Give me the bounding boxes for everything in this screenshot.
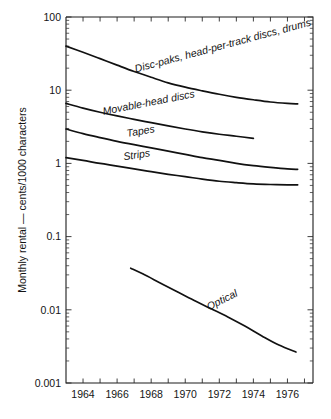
y-tick-label: 0.01 (41, 304, 62, 316)
x-tick-label: 1974 (242, 388, 266, 400)
x-tick-label: 1966 (105, 388, 129, 400)
x-tick-label: 1964 (71, 388, 95, 400)
x-tick-label: 1976 (276, 388, 300, 400)
y-tick-label: 0.1 (46, 230, 61, 242)
y-tick-label: 0.001 (35, 377, 61, 389)
chart-container: 1001010.10.010.001 196419661968197019721… (0, 0, 331, 419)
y-axis-title-text: Monthly rental — cents/1000 characters (16, 107, 28, 293)
y-tick-label: 10 (49, 84, 61, 96)
x-tick-label: 1972 (208, 388, 232, 400)
y-tick-label: 1 (55, 157, 61, 169)
x-tick-label: 1970 (174, 388, 198, 400)
y-axis-title: Monthly rental — cents/1000 characters (16, 107, 28, 293)
log-line-chart: 1001010.10.010.001 196419661968197019721… (0, 0, 331, 419)
y-tick-label: 100 (43, 11, 61, 23)
x-tick-label: 1968 (139, 388, 163, 400)
